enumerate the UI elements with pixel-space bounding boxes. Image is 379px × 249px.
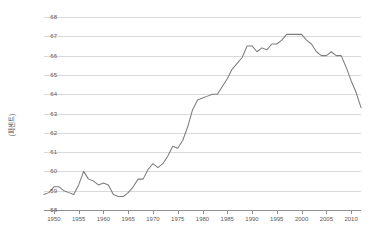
x-tick-mark-1985 [227,210,228,214]
x-tick-mark-1990 [252,210,253,214]
x-tick-mark-1955 [79,210,80,214]
x-tick-mark-2005 [326,210,327,214]
y-axis-title: (퍼센트) [0,0,22,249]
y-tick-label-61: 61 [41,149,57,155]
y-tick-label-59: 59 [41,187,57,193]
y-tick-label-67: 67 [41,33,57,39]
x-tick-mark-1950 [54,210,55,214]
x-tick-mark-1960 [103,210,104,214]
x-tick-mark-1975 [178,210,179,214]
x-tick-mark-1970 [153,210,154,214]
y-tick-label-64: 64 [41,91,57,97]
y-tick-label-65: 65 [41,71,57,77]
y-axis-title-label: (퍼센트) [6,113,16,135]
y-tick-label-60: 60 [41,168,57,174]
y-tick-label-66: 66 [41,52,57,58]
line-chart: (퍼센트) 6867666564636261605958195019551960… [0,0,379,249]
y-tick-label-68: 68 [41,14,57,20]
x-tick-mark-1980 [203,210,204,214]
x-tick-mark-2010 [351,210,352,214]
series-line-chart [44,17,361,210]
x-tick-mark-1965 [128,210,129,214]
x-tick-mark-1995 [277,210,278,214]
series-path-labor-force-participation-rate [44,34,361,196]
y-tick-label-63: 63 [41,110,57,116]
x-tick-label-2010: 2010 [336,216,366,222]
x-tick-mark-2000 [302,210,303,214]
y-tick-label-62: 62 [41,129,57,135]
